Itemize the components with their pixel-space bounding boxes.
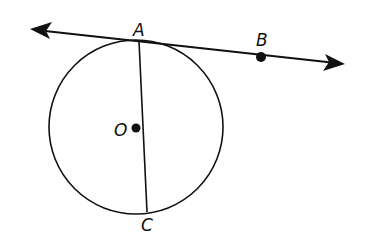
point-b xyxy=(256,52,266,62)
diagram-canvas: A B O C xyxy=(0,0,365,242)
label-b: B xyxy=(256,32,268,49)
point-o xyxy=(132,124,141,133)
tangent-line-ab xyxy=(36,30,336,63)
label-a: A xyxy=(133,22,145,39)
label-c: C xyxy=(141,217,153,234)
geometry-figure xyxy=(0,0,365,242)
label-o: O xyxy=(114,122,127,139)
